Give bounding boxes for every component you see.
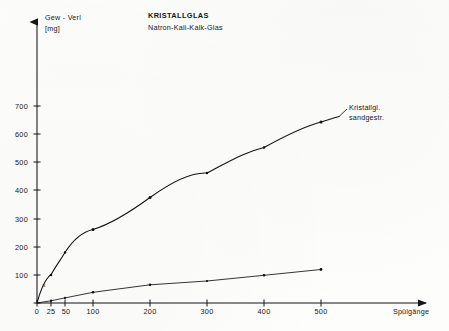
y-axis-tick-labels: 100 200 300 400 500 600 700 [15, 102, 28, 280]
chart-subtitle: Natron-Kali-Kalk-Glas [148, 23, 223, 34]
chart-canvas: 100 200 300 400 500 600 700 0 25 50 100 … [0, 0, 449, 331]
x-tick-label-500: 500 [315, 307, 328, 316]
y-tick-label-600: 600 [15, 130, 28, 139]
series-line-kristallglas [37, 270, 321, 304]
annotation-leader-line [339, 109, 347, 117]
series-annotation-line1: Kristallgl. [349, 103, 384, 113]
y-tick-label-500: 500 [15, 158, 28, 167]
series-line-kristallgl-sandgestr [37, 117, 339, 304]
y-axis-unit: [mg] [45, 24, 81, 34]
x-tick-label-25: 25 [47, 307, 56, 316]
chart-figure: 100 200 300 400 500 600 700 0 25 50 100 … [0, 0, 449, 331]
y-axis-label: Gew - Verl [45, 13, 81, 23]
x-tick-label-400: 400 [258, 307, 271, 316]
chart-title-block: KRISTALLGLAS Natron-Kali-Kalk-Glas [148, 11, 223, 34]
series-annotation-line2: sandgestr. [349, 113, 384, 123]
series-annotation-kristallgl-sandgestr: Kristallgl. sandgestr. [349, 103, 384, 122]
y-tick-label-400: 400 [15, 186, 28, 195]
x-tick-label-0: 0 [35, 307, 39, 316]
x-tick-label-100: 100 [87, 307, 100, 316]
x-tick-label-50: 50 [62, 307, 71, 316]
y-tick-label-100: 100 [15, 271, 28, 280]
x-axis-tick-labels: 0 25 50 100 200 300 400 500 [35, 307, 328, 316]
x-axis-title: Spülgänge [393, 307, 429, 316]
y-axis-label-block: Gew - Verl [mg] [45, 13, 81, 34]
x-tick-label-300: 300 [201, 307, 214, 316]
origin-x-marker: x [43, 282, 46, 288]
y-tick-label-700: 700 [15, 102, 28, 111]
chart-title: KRISTALLGLAS [148, 11, 223, 22]
series-markers-kristallgl-sandgestr [50, 121, 323, 277]
y-tick-label-300: 300 [15, 215, 28, 224]
y-tick-label-200: 200 [15, 243, 28, 252]
x-tick-label-200: 200 [144, 307, 157, 316]
